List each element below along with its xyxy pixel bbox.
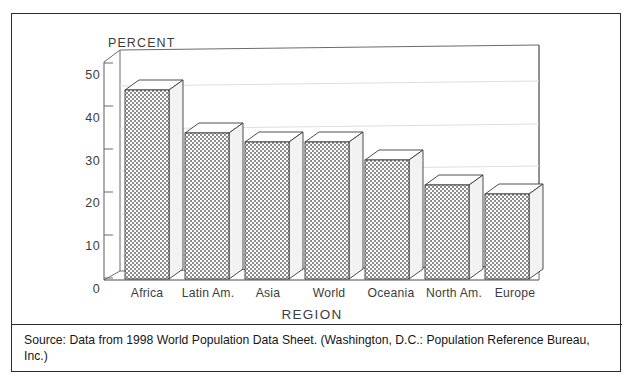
x-tick-label-north-am: North Am. [426, 286, 482, 300]
bar-north-am [425, 175, 483, 279]
x-tick-label-europe: Europe [495, 286, 536, 300]
bar-europe [485, 184, 543, 279]
x-tick-label-world: World [313, 286, 346, 300]
x-tick-label-latin-am: Latin Am. [182, 286, 235, 300]
chart-3d-bars [12, 14, 622, 324]
x-tick-label-africa: Africa [131, 286, 163, 300]
bar-world [305, 132, 363, 279]
x-tick-label-oceania: Oceania [368, 286, 415, 300]
bar-africa [125, 80, 183, 279]
bar-oceania [365, 150, 423, 279]
chart-plot-area: 50 40 30 20 10 0 PERCENT [12, 14, 622, 324]
figure-frame: 50 40 30 20 10 0 PERCENT [11, 13, 621, 372]
bar-latin-am [185, 123, 243, 279]
bar-asia [245, 132, 303, 279]
source-note: Source: Data from 1998 World Population … [24, 332, 612, 364]
x-axis-title: REGION [281, 307, 342, 322]
x-tick-label-asia: Asia [256, 286, 281, 300]
source-divider [12, 324, 622, 325]
